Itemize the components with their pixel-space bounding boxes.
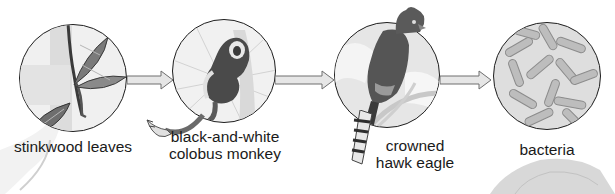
colobus-label-line1: black-and-white	[150, 128, 300, 145]
bacteria-circle	[493, 22, 601, 130]
arrow-right-icon	[440, 70, 494, 90]
bacteria-icon	[494, 23, 601, 130]
stinkwood-label-text: stinkwood leaves	[0, 138, 146, 155]
stinkwood-label: stinkwood leaves	[0, 138, 146, 155]
eagle-label-line1: crowned	[360, 137, 470, 154]
eagle-label: crowned hawk eagle	[360, 137, 470, 171]
eagle-crest-icon	[390, 4, 430, 44]
stinkwood-circle	[19, 24, 127, 132]
colobus-label-line2: colobus monkey	[150, 145, 300, 162]
colobus-circle	[172, 19, 276, 123]
monkey-icon	[173, 20, 276, 123]
arrow-right-icon	[275, 70, 337, 90]
arrow-right-icon	[127, 70, 175, 90]
colobus-label: black-and-white colobus monkey	[150, 128, 300, 162]
eagle-label-line2: hawk eagle	[360, 154, 470, 171]
bacteria-label: bacteria	[500, 141, 594, 158]
leaf-branch-icon	[20, 25, 127, 132]
bacteria-label-text: bacteria	[500, 141, 594, 158]
